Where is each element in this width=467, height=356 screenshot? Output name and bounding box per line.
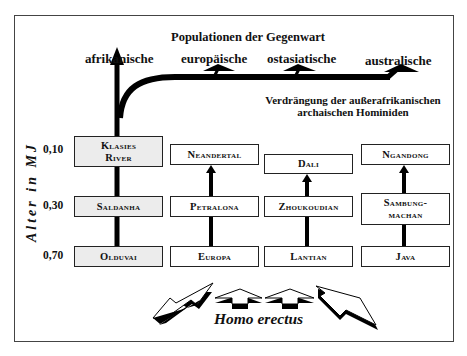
site-box-dali: Dali xyxy=(264,154,353,174)
site-box-sambungmachan: Sambung-machan xyxy=(361,193,450,225)
site-box-europa: Europa xyxy=(170,246,259,267)
age-tick-0-30: 0,30 xyxy=(43,199,63,211)
site-box-neandertal: Neandertal xyxy=(170,144,259,165)
site-box-lantian: Lantian xyxy=(264,246,353,267)
replacement-annotation: Verdrängung der außerafrikanischen archa… xyxy=(258,94,448,118)
age-tick-0-10: 0,10 xyxy=(43,143,63,155)
population-label-african: afrikanische xyxy=(85,51,154,67)
population-label-australian: australische xyxy=(365,53,431,69)
site-box-zhoukoudian: Zhoukoudian xyxy=(264,196,353,217)
population-label-european: europäische xyxy=(181,51,247,67)
site-box-saldanha: Saldanha xyxy=(74,196,163,217)
site-box-olduvai: Olduvai xyxy=(74,246,163,267)
site-box-petralona: Petralona xyxy=(170,196,259,217)
site-box-ngandong: Ngandong xyxy=(361,144,450,165)
diagram-title: Populationen der Gegenwart xyxy=(171,30,325,45)
homo-erectus-label: Homo erectus xyxy=(214,310,303,328)
population-label-east-asian: ostasiatische xyxy=(267,51,336,67)
site-box-klasies-river: Klasies River xyxy=(74,136,163,167)
age-tick-0-70: 0,70 xyxy=(43,249,63,261)
annotation-line-2: archaischen Hominiden xyxy=(258,106,448,118)
annotation-line-1: Verdrängung der außerafrikanischen xyxy=(258,94,448,106)
site-box-java: Java xyxy=(361,246,450,267)
y-axis-label: Alter in MJ xyxy=(24,142,40,242)
